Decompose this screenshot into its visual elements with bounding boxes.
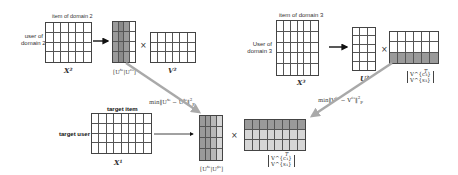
user-transfer-arrow xyxy=(126,63,199,112)
item-transfer-arrow xyxy=(312,63,392,116)
arrows-layer xyxy=(0,0,458,175)
